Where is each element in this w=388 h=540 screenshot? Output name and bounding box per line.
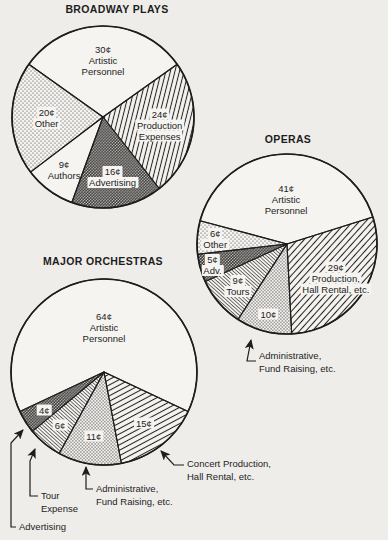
figure-svg xyxy=(0,0,388,540)
pies-group xyxy=(11,26,377,465)
pie-figure: BROADWAY PLAYS OPERAS MAJOR ORCHESTRAS A… xyxy=(0,0,388,540)
orchestras-advertising-arrow xyxy=(11,430,23,527)
operas-admin-arrow xyxy=(247,340,256,361)
orchestras-tour-arrow xyxy=(30,449,38,496)
orchestras-admin-arrow xyxy=(86,467,93,489)
orchestras-concert-arrow xyxy=(161,451,184,465)
